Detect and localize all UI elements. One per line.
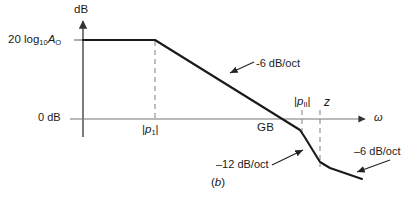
pole1-subscript: 1 xyxy=(151,128,155,137)
x-axis-omega-label: ω xyxy=(374,112,383,123)
leader-slope-first-rolloff xyxy=(230,62,254,73)
leader-slope-post-zero xyxy=(357,160,390,172)
y-axis-unit-label: dB xyxy=(74,4,88,16)
slope-annotation-post-zero: –6 dB/oct xyxy=(354,146,400,157)
slope-annotation-first-rolloff: -6 dB/oct xyxy=(256,58,300,69)
gain-bandwidth-label: GB xyxy=(257,122,274,134)
slope-annotation-second-rolloff: –12 dB/oct xyxy=(216,159,269,170)
zero-frequency-label: z xyxy=(324,96,330,108)
dc-gain-subscript: 10 xyxy=(39,38,47,47)
caption-paren-close: ) xyxy=(221,176,225,188)
pole2-bar-close: | xyxy=(308,95,311,107)
leader-slope-second-rolloff xyxy=(272,150,303,165)
pole1-label: |p1| xyxy=(142,124,159,136)
pole2-subscript: II xyxy=(303,100,307,109)
dc-gain-prefix: 20 log xyxy=(8,33,39,45)
subfigure-caption: (b) xyxy=(211,177,225,189)
pole1-bar-close: | xyxy=(156,123,159,135)
zero-db-label: 0 dB xyxy=(38,112,61,123)
bode-plot-figure: dB 20 log10AO 0 dB |p1| GB |pII| z ω -6 … xyxy=(0,0,412,201)
bode-plot-canvas xyxy=(0,0,412,201)
dc-gain-variable-subscript: O xyxy=(55,38,61,47)
dc-gain-label: 20 log10AO xyxy=(8,34,61,46)
pole2-label: |pII| xyxy=(294,96,311,108)
